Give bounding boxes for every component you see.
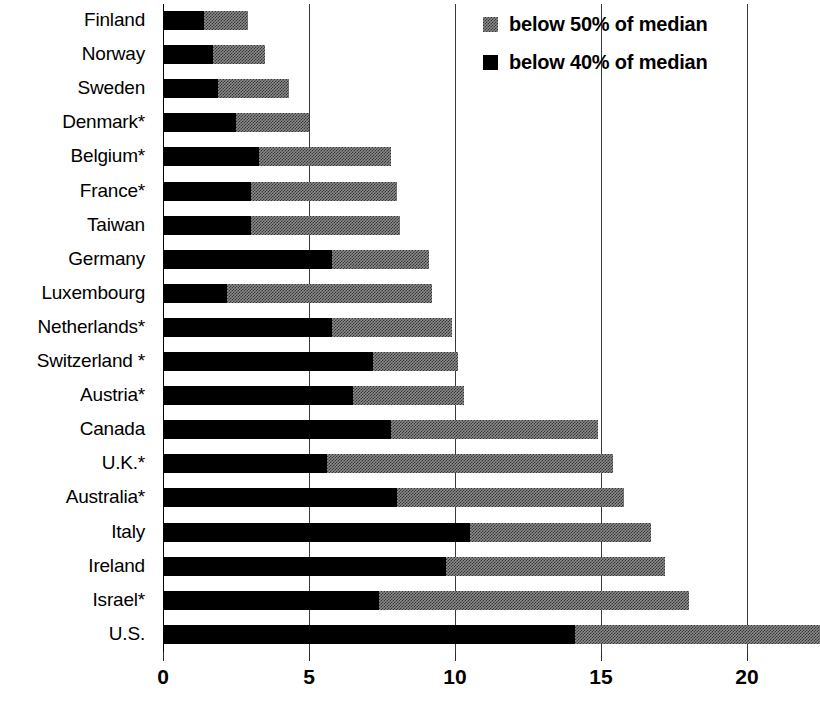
bar-row [163, 550, 800, 584]
legend-item[interactable]: below 50% of median [483, 5, 793, 43]
stacked-bar[interactable] [163, 318, 452, 337]
category-label: Italy [111, 521, 145, 543]
x-tick-mark [601, 652, 602, 661]
bar-segment-below-40[interactable] [163, 79, 218, 98]
bar-segment-below-40[interactable] [163, 420, 391, 439]
bar-segment-below-40[interactable] [163, 591, 379, 610]
bar-row [163, 413, 800, 447]
bar-row [163, 379, 800, 413]
bar-row [163, 106, 800, 140]
stacked-bar[interactable] [163, 11, 248, 30]
bar-segment-below-40[interactable] [163, 147, 259, 166]
x-tick-label: 20 [735, 664, 758, 690]
category-label: Denmark* [62, 111, 145, 133]
stacked-bar[interactable] [163, 557, 665, 576]
x-tick-mark [309, 652, 310, 661]
bar-segment-below-40[interactable] [163, 250, 332, 269]
stacked-bar[interactable] [163, 79, 289, 98]
bar-segment-below-40[interactable] [163, 488, 397, 507]
bar-segment-below-40[interactable] [163, 625, 575, 644]
stacked-bar[interactable] [163, 591, 689, 610]
category-label: Switzerland * [37, 350, 145, 372]
bar-segment-below-40[interactable] [163, 318, 332, 337]
x-tick-mark [747, 652, 748, 661]
bar-segment-below-50[interactable] [213, 45, 266, 64]
stacked-bar[interactable] [163, 488, 624, 507]
stacked-bar[interactable] [163, 45, 265, 64]
bar-segment-below-40[interactable] [163, 11, 204, 30]
bar-segment-below-50[interactable] [379, 591, 689, 610]
stacked-bar[interactable] [163, 284, 432, 303]
bar-segment-below-40[interactable] [163, 113, 236, 132]
bar-row [163, 345, 800, 379]
category-label: Belgium* [71, 145, 145, 167]
bar-segment-below-50[interactable] [227, 284, 431, 303]
bar-row [163, 584, 800, 618]
bar-segment-below-50[interactable] [251, 182, 397, 201]
bar-row [163, 447, 800, 481]
bar-segment-below-40[interactable] [163, 352, 373, 371]
bar-row [163, 140, 800, 174]
bar-segment-below-50[interactable] [446, 557, 665, 576]
chart-legend: below 50% of medianbelow 40% of median [483, 5, 793, 81]
bar-segment-below-40[interactable] [163, 216, 251, 235]
x-tick-label: 5 [303, 664, 315, 690]
x-tick-label: 15 [589, 664, 612, 690]
bar-segment-below-50[interactable] [236, 113, 309, 132]
stacked-bar[interactable] [163, 113, 309, 132]
stacked-bar[interactable] [163, 420, 598, 439]
bar-segment-below-40[interactable] [163, 182, 251, 201]
category-label: Australia* [66, 486, 145, 508]
bar-row [163, 277, 800, 311]
category-label: Norway [82, 43, 145, 65]
bar-row [163, 243, 800, 277]
bar-segment-below-50[interactable] [373, 352, 458, 371]
x-axis-tick-labels: 05101520 [0, 664, 800, 698]
bar-segment-below-50[interactable] [397, 488, 625, 507]
bar-segment-below-40[interactable] [163, 284, 227, 303]
bar-row [163, 516, 800, 550]
bar-segment-below-50[interactable] [251, 216, 400, 235]
stacked-bar[interactable] [163, 250, 429, 269]
category-label: U.K.* [102, 452, 145, 474]
bar-segment-below-50[interactable] [204, 11, 248, 30]
bar-segment-below-50[interactable] [391, 420, 598, 439]
plot-area [163, 4, 800, 652]
bar-segment-below-40[interactable] [163, 557, 446, 576]
bar-segment-below-50[interactable] [327, 454, 613, 473]
category-label: Sweden [78, 77, 145, 99]
stacked-bar[interactable] [163, 625, 820, 644]
stacked-bar[interactable] [163, 182, 397, 201]
bar-segment-below-50[interactable] [470, 523, 651, 542]
bar-segment-below-40[interactable] [163, 45, 213, 64]
category-label: Canada [80, 418, 145, 440]
legend-item[interactable]: below 40% of median [483, 43, 793, 81]
stacked-bar[interactable] [163, 523, 651, 542]
bar-row [163, 175, 800, 209]
stacked-bar[interactable] [163, 147, 391, 166]
bar-segment-below-40[interactable] [163, 454, 327, 473]
x-tick-mark [455, 652, 456, 661]
bar-segment-below-50[interactable] [332, 250, 428, 269]
bar-segment-below-50[interactable] [332, 318, 452, 337]
bar-segment-below-40[interactable] [163, 386, 353, 405]
bar-row [163, 481, 800, 515]
x-tick-label: 0 [157, 664, 169, 690]
stacked-bar[interactable] [163, 352, 458, 371]
stacked-bar[interactable] [163, 216, 400, 235]
bar-segment-below-50[interactable] [218, 79, 288, 98]
bar-segment-below-40[interactable] [163, 523, 470, 542]
stacked-bar[interactable] [163, 386, 464, 405]
bar-row [163, 311, 800, 345]
category-label: Finland [84, 9, 145, 31]
bar-row [163, 618, 800, 652]
stacked-bar[interactable] [163, 454, 613, 473]
legend-label: below 50% of median [509, 13, 707, 36]
x-tick-mark [163, 652, 164, 661]
bar-segment-below-50[interactable] [575, 625, 820, 644]
bar-segment-below-50[interactable] [259, 147, 390, 166]
category-label: U.S. [109, 623, 145, 645]
category-label: Austria* [80, 384, 145, 406]
bar-segment-below-50[interactable] [353, 386, 464, 405]
